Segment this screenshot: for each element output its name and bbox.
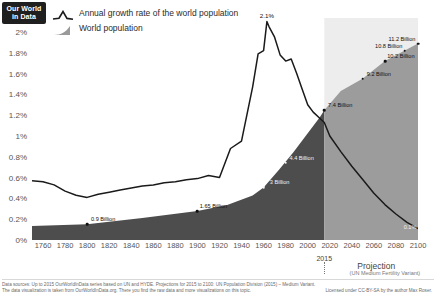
line-peak-icon	[52, 7, 74, 18]
data-label: 7.4 Billion	[328, 102, 352, 108]
x-axis-tick: 2000	[299, 241, 316, 250]
data-label: 10.8 Billion	[375, 43, 402, 49]
x-axis: 1760178018001820184018601880190019201940…	[32, 241, 418, 253]
peak-growth-label: 2.1%	[260, 11, 274, 18]
data-label: 3 Billion	[270, 179, 290, 185]
data-label: 9.2 Billion	[367, 71, 391, 77]
x-axis-tick: 1900	[189, 241, 206, 250]
x-axis-tick: 1860	[145, 241, 162, 250]
projection-sublabel: (UN Medium Fertility Variant)	[350, 270, 421, 276]
x-axis-tick: 1780	[57, 241, 74, 250]
data-point-marker	[403, 49, 406, 52]
footer-sources: Data sources: Up to 2015 OurWorldInData …	[2, 282, 434, 294]
x-axis-tick: 2040	[343, 241, 360, 250]
chart-figure: Our World in Data Annual growth rate of …	[0, 0, 436, 306]
y-axis-tick: 2%	[15, 28, 27, 37]
data-label: 4.4 Billion	[290, 155, 314, 161]
data-point-marker	[362, 77, 365, 80]
x-axis-tick: 1960	[255, 241, 272, 250]
y-axis-tick: 0.2%	[9, 215, 27, 224]
x-axis-tick: 2100	[410, 241, 427, 250]
data-label: 0.1%	[404, 224, 417, 230]
legend-label-growth-rate: Annual growth rate of the world populati…	[79, 8, 238, 18]
y-axis-tick: 1.4%	[9, 90, 27, 99]
y-axis-tick: 0.8%	[9, 152, 27, 161]
y-axis: 0%0.2%0.4%0.6%0.8%1%1.2%1.4%1.6%1.8%2%	[0, 18, 30, 240]
data-label: 10.2 Billion	[387, 53, 414, 59]
data-label: 11.2 Billion	[389, 36, 416, 42]
data-point-marker	[262, 186, 265, 189]
data-point-marker	[323, 109, 326, 112]
data-point-marker	[417, 42, 420, 45]
x-axis-tick: 1920	[211, 241, 228, 250]
footer-divider	[2, 279, 434, 280]
logo-line-1: Our World	[7, 5, 42, 13]
data-label: 0.9 Billion	[91, 216, 115, 222]
data-label: 1.65 Billion	[200, 203, 227, 209]
x-axis-tick: 1980	[277, 241, 294, 250]
x-axis-tick: 1940	[233, 241, 250, 250]
x-axis-tick: 1760	[35, 241, 52, 250]
data-point-marker	[86, 223, 89, 226]
x-axis-tick: 2020	[321, 241, 338, 250]
year-marker-line	[324, 262, 325, 274]
y-axis-tick: 0.6%	[9, 173, 27, 182]
y-axis-tick: 1.8%	[9, 48, 27, 57]
x-axis-tick: 1800	[79, 241, 96, 250]
y-axis-tick: 1.2%	[9, 111, 27, 120]
footer-license: Licensed under CC-BY-SA by the author Ma…	[325, 288, 432, 293]
x-axis-tick: 2080	[388, 241, 405, 250]
data-point-marker	[196, 210, 199, 213]
y-axis-tick: 1.6%	[9, 69, 27, 78]
data-point-marker	[284, 162, 287, 165]
y-axis-tick: 0.4%	[9, 194, 27, 203]
y-axis-tick: 1%	[15, 132, 27, 141]
data-point-marker	[384, 60, 387, 63]
x-axis-tick: 1880	[167, 241, 184, 250]
x-axis-tick: 1820	[101, 241, 118, 250]
x-axis-tick: 1840	[123, 241, 140, 250]
population-area-historic	[32, 110, 324, 240]
x-axis-tick: 2060	[366, 241, 383, 250]
y-axis-tick: 0%	[15, 236, 27, 245]
year-marker-2015: 2015	[316, 255, 332, 262]
